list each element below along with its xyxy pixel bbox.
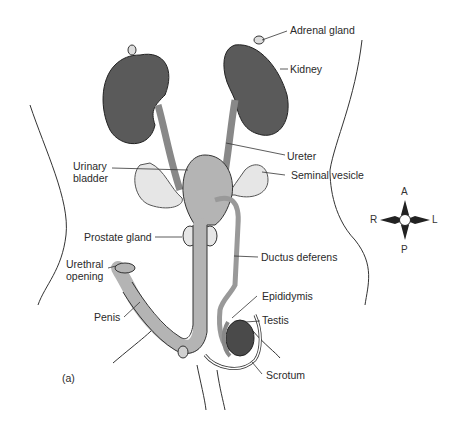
compass-left: L	[432, 214, 438, 225]
panel-label: (a)	[62, 372, 75, 384]
label-testis: Testis	[262, 314, 289, 326]
seminal-vesicle-left	[228, 165, 268, 197]
urinary-bladder	[183, 155, 233, 225]
label-urethral-opening-line2: opening	[66, 270, 103, 282]
label-kidney: Kidney	[290, 63, 322, 75]
body-outline-left	[30, 105, 66, 305]
label-adrenal-gland: Adrenal gland	[290, 24, 355, 36]
label-ductus-deferens: Ductus deferens	[261, 251, 337, 263]
kidney-right-icon	[103, 45, 169, 144]
label-prostate-gland: Prostate gland	[84, 231, 152, 243]
thigh-center-right	[217, 370, 225, 410]
thigh-center-left	[197, 365, 206, 410]
bulbourethral-gland	[178, 346, 188, 358]
compass-right: R	[370, 214, 377, 225]
male-urinary-reproductive-diagram	[0, 0, 458, 433]
label-epididymis: Epididymis	[262, 290, 313, 302]
label-urinary-bladder-line2: bladder	[73, 172, 108, 184]
penis-glans	[115, 263, 135, 273]
label-scrotum: Scrotum	[266, 369, 305, 381]
thigh-right	[252, 330, 280, 358]
label-urinary-bladder-line1: Urinary	[73, 160, 107, 172]
testis	[226, 320, 254, 356]
label-seminal-vesicle: Seminal vesicle	[291, 169, 364, 181]
compass-anterior: A	[401, 186, 408, 197]
label-penis: Penis	[94, 311, 120, 323]
label-urethral-opening-line1: Urethral	[66, 258, 103, 270]
compass-posterior: P	[401, 244, 408, 255]
orientation-compass-icon	[380, 200, 430, 240]
label-ureter: Ureter	[287, 150, 316, 162]
